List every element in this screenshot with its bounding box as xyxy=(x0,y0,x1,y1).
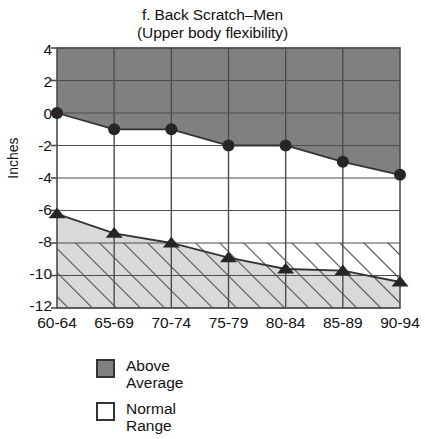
legend-label-line: Above xyxy=(126,357,183,374)
legend-label-line: Range xyxy=(126,417,176,434)
x-tick-label: 90-94 xyxy=(380,314,420,332)
legend-swatch-normal-range xyxy=(96,402,115,421)
x-tick-label: 80-84 xyxy=(266,314,306,332)
legend-swatch-above-average xyxy=(96,359,115,378)
data-point-circle xyxy=(108,123,120,135)
legend-label-line: Average xyxy=(126,374,183,391)
data-point-triangle xyxy=(49,208,66,219)
chart-legend: Above Average Normal Range xyxy=(96,357,183,439)
legend-label-line: Normal xyxy=(126,400,176,417)
legend-item-above-average: Above Average xyxy=(96,357,183,391)
plot-area xyxy=(0,0,425,439)
x-tick-label: 65-69 xyxy=(94,314,134,332)
data-point-circle xyxy=(394,169,406,181)
x-tick-label: 85-89 xyxy=(323,314,363,332)
data-point-circle xyxy=(223,140,235,152)
chart-container: f. Back Scratch–Men (Upper body flexibil… xyxy=(0,0,425,439)
x-tick-label: 60-64 xyxy=(37,314,77,332)
data-point-circle xyxy=(51,107,63,119)
legend-label-above-average: Above Average xyxy=(126,357,183,391)
legend-item-normal-range: Normal Range xyxy=(96,400,183,434)
data-point-circle xyxy=(165,123,177,135)
legend-label-normal-range: Normal Range xyxy=(126,400,176,434)
x-tick-label: 75-79 xyxy=(209,314,249,332)
data-point-circle xyxy=(280,140,292,152)
x-tick-label: 70-74 xyxy=(152,314,192,332)
data-point-circle xyxy=(337,156,349,168)
